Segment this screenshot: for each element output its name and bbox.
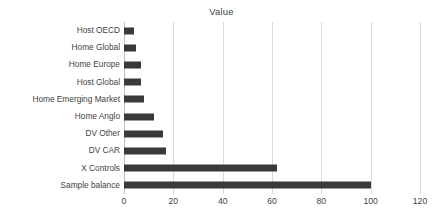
bar xyxy=(124,130,163,137)
bar-row xyxy=(124,56,420,73)
bar xyxy=(124,96,144,103)
category-label: Home Europe xyxy=(69,56,120,73)
category-label: Home Emerging Market xyxy=(32,91,120,108)
bar xyxy=(124,61,141,68)
x-tick-label: 100 xyxy=(363,196,377,206)
category-label: DV Other xyxy=(85,125,120,142)
x-tick-label: 20 xyxy=(169,196,179,206)
x-axis-tick-labels: 020406080100120 xyxy=(124,196,420,216)
bar-row xyxy=(124,22,420,39)
category-label: Host OECD xyxy=(77,22,120,39)
plot-area xyxy=(124,22,420,194)
bar xyxy=(124,79,141,86)
category-label: Host Global xyxy=(77,74,120,91)
bar xyxy=(124,113,154,120)
category-label: X Controls xyxy=(81,160,120,177)
bar-row xyxy=(124,74,420,91)
x-tick-label: 40 xyxy=(218,196,228,206)
x-tick-label: 120 xyxy=(413,196,427,206)
bar-row xyxy=(124,142,420,159)
y-axis-category-labels: Host OECDHome GlobalHome EuropeHost Glob… xyxy=(0,22,120,194)
bar xyxy=(124,44,136,51)
bar-row xyxy=(124,125,420,142)
category-label: Sample balance xyxy=(60,177,120,194)
bar xyxy=(124,165,277,172)
bar-chart: Value Host OECDHome GlobalHome EuropeHos… xyxy=(0,0,443,220)
bar-row xyxy=(124,160,420,177)
bar-row xyxy=(124,39,420,56)
category-label: Home Global xyxy=(72,39,120,56)
bar xyxy=(124,27,134,34)
bar-row xyxy=(124,177,420,194)
category-label: Home Anglo xyxy=(75,108,120,125)
bar-row xyxy=(124,108,420,125)
chart-title: Value xyxy=(0,6,443,17)
x-tick-label: 0 xyxy=(122,196,127,206)
gridline-120 xyxy=(420,22,421,194)
x-tick-label: 60 xyxy=(267,196,277,206)
bar xyxy=(124,147,166,154)
category-label: DV CAR xyxy=(89,142,120,159)
bar-row xyxy=(124,91,420,108)
x-tick-label: 80 xyxy=(317,196,327,206)
bar xyxy=(124,182,371,189)
